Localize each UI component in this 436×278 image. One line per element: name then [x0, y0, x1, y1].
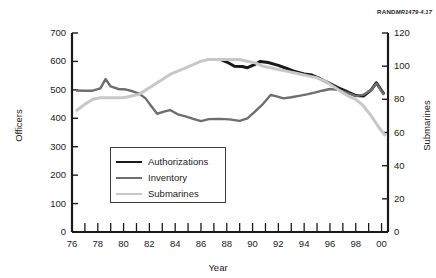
y-tick-left-500: 500 — [36, 84, 66, 95]
chart-figure: RANDMR1479-4.17 Officers Submarines Year… — [0, 0, 436, 278]
y-tick-right-40: 40 — [394, 160, 424, 171]
x-tick-76: 76 — [62, 238, 82, 249]
y-tick-left-0: 0 — [36, 226, 66, 237]
legend-swatch-inventory — [116, 177, 142, 179]
x-tick-86: 86 — [191, 238, 211, 249]
y-tick-left-400: 400 — [36, 112, 66, 123]
y-tick-left-700: 700 — [36, 27, 66, 38]
chart-legend: AuthorizationsInventorySubmarines — [110, 147, 226, 203]
y-tick-right-80: 80 — [394, 93, 424, 104]
y-tick-left-100: 100 — [36, 198, 66, 209]
legend-label-inventory: Inventory — [148, 173, 187, 183]
y-tick-right-20: 20 — [394, 193, 424, 204]
y-tick-right-100: 100 — [394, 60, 424, 71]
series-line-inventory — [76, 79, 384, 121]
series-line-authorizations — [207, 59, 384, 96]
y-tick-left-600: 600 — [36, 55, 66, 66]
y-tick-right-120: 120 — [394, 27, 424, 38]
x-axis-title: Year — [0, 262, 436, 273]
x-tick-94: 94 — [294, 238, 314, 249]
x-tick-82: 82 — [139, 238, 159, 249]
legend-swatch-submarines — [116, 193, 142, 196]
legend-item-authorizations: Authorizations — [116, 154, 208, 170]
x-tick-80: 80 — [114, 238, 134, 249]
x-tick-88: 88 — [217, 238, 237, 249]
y-tick-left-300: 300 — [36, 141, 66, 152]
legend-label-submarines: Submarines — [148, 189, 199, 199]
series-line-submarines — [76, 60, 386, 136]
legend-label-authorizations: Authorizations — [148, 157, 208, 167]
y-tick-left-200: 200 — [36, 169, 66, 180]
x-tick-90: 90 — [243, 238, 263, 249]
x-tick-84: 84 — [165, 238, 185, 249]
x-tick-78: 78 — [88, 238, 108, 249]
y-tick-right-0: 0 — [394, 226, 424, 237]
y-axis-title-left: Officers — [13, 91, 24, 161]
y-tick-right-60: 60 — [394, 127, 424, 138]
x-tick-98: 98 — [346, 238, 366, 249]
legend-item-submarines: Submarines — [116, 186, 199, 202]
legend-swatch-authorizations — [116, 161, 142, 164]
x-tick-00: 00 — [372, 238, 392, 249]
x-tick-92: 92 — [268, 238, 288, 249]
legend-item-inventory: Inventory — [116, 170, 187, 186]
x-tick-96: 96 — [320, 238, 340, 249]
